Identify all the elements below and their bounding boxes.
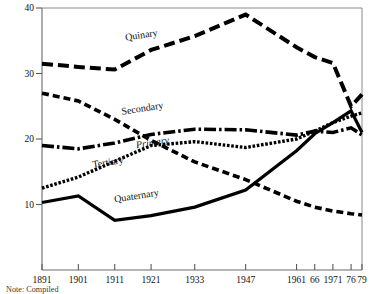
line-chart: 10203040 1891190119111921193319471961661… — [0, 0, 375, 294]
x-axis-ticks: 18911901191119211933194719616619717679 — [33, 264, 368, 285]
series-label-quinary: Quinary — [124, 27, 158, 43]
x-tick-label: 1901 — [69, 275, 88, 285]
y-axis-ticks: 10203040 — [25, 3, 43, 210]
x-tick-label: 1911 — [105, 275, 124, 285]
x-tick-label: 79 — [357, 275, 367, 285]
y-tick-label: 20 — [25, 134, 35, 144]
x-tick-label: 66 — [310, 275, 320, 285]
chart-container: 10203040 1891190119111921193319471961661… — [0, 0, 375, 294]
plot-frame — [42, 8, 362, 270]
series-label-quaternary: Quaternary — [113, 187, 159, 205]
series-annotations: QuinarySecondaryPrimaryTertiaryQuaternar… — [92, 27, 171, 205]
series-lines — [42, 15, 362, 221]
x-tick-label: 1961 — [287, 275, 306, 285]
series-line-quinary — [42, 15, 362, 107]
x-tick-label: 1971 — [323, 275, 342, 285]
chart-note: Note: Compiled — [6, 285, 59, 294]
x-tick-label: 1921 — [142, 275, 161, 285]
series-line-primary — [42, 93, 362, 215]
series-label-secondary: Secondary — [121, 99, 164, 116]
x-tick-label: 1891 — [33, 275, 52, 285]
y-tick-label: 10 — [25, 200, 35, 210]
series-line-secondary — [42, 128, 362, 149]
x-tick-label: 1947 — [236, 275, 255, 285]
x-tick-label: 1933 — [185, 275, 204, 285]
y-tick-label: 30 — [25, 69, 35, 79]
y-tick-label: 40 — [25, 3, 35, 13]
x-tick-label: 76 — [346, 275, 356, 285]
series-line-tertiary — [42, 113, 362, 188]
series-label-tertiary: Tertiary — [92, 154, 125, 170]
